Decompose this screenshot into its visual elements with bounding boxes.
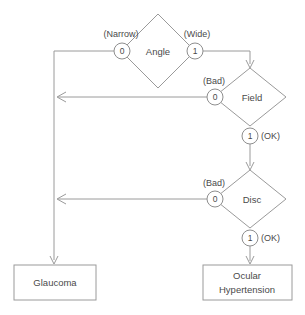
ocular-hypertension-label-line1: Ocular <box>233 270 261 281</box>
ocular-hypertension-label-line2: Hypertension <box>219 284 275 295</box>
annotation-disc-bad: (Bad) <box>203 178 225 188</box>
annotation-field-bad: (Bad) <box>203 76 225 86</box>
port-angle-narrow[interactable]: 0 <box>114 43 130 59</box>
annotation-disc-ok: (OK) <box>261 233 280 243</box>
field-bad-value: 0 <box>213 92 218 102</box>
flow-canvas: Angle Field Disc 0 1 0 <box>0 0 305 315</box>
angle-narrow-value: 0 <box>120 46 125 56</box>
angle-label: Angle <box>146 46 170 57</box>
disc-label: Disc <box>243 194 262 205</box>
glaucoma-label: Glaucoma <box>33 277 77 288</box>
port-disc-bad[interactable]: 0 <box>207 191 223 207</box>
field-ok-value: 1 <box>248 131 253 141</box>
edge-angle-wide-to-field <box>203 51 250 64</box>
port-angle-wide[interactable]: 1 <box>187 43 203 59</box>
disc-bad-value: 0 <box>213 194 218 204</box>
port-field-ok[interactable]: 1 <box>242 128 258 144</box>
decision-angle[interactable]: Angle <box>121 14 195 88</box>
field-label: Field <box>242 92 263 103</box>
port-field-bad[interactable]: 0 <box>207 89 223 105</box>
annotation-angle-wide: (Wide) <box>184 29 211 39</box>
disc-ok-value: 1 <box>248 233 253 243</box>
terminal-ocular-hypertension[interactable]: Ocular Hypertension <box>203 265 292 300</box>
terminal-glaucoma[interactable]: Glaucoma <box>14 265 96 300</box>
annotation-field-ok: (OK) <box>261 131 280 141</box>
edge-angle-narrow-to-glaucoma <box>54 51 114 260</box>
port-disc-ok[interactable]: 1 <box>242 230 258 246</box>
angle-wide-value: 1 <box>193 46 198 56</box>
annotation-angle-narrow: (Narrow) <box>104 29 139 39</box>
decision-tree-diagram: Angle Field Disc 0 1 0 <box>0 0 305 315</box>
